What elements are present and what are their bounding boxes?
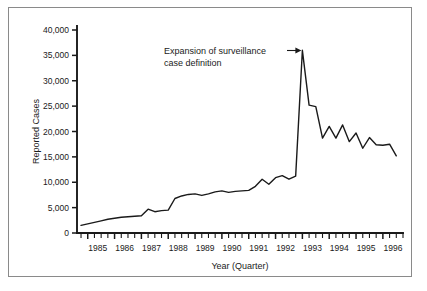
x-tick-label: 1991 [249,243,268,253]
annotation-line-1: Expansion of surveillance [164,46,266,56]
line-chart: 05,00010,00015,00020,00025,00030,00035,0… [9,8,413,278]
x-axis-title: Year (Quarter) [211,261,268,271]
x-tick-label: 1993 [303,243,322,253]
annotation-line-2: case definition [164,58,222,68]
y-axis-title: Reported Cases [31,98,41,164]
y-tick-label: 40,000 [43,25,69,35]
x-tick-label: 1995 [357,243,376,253]
x-tick-label: 1985 [88,243,107,253]
y-tick-label: 35,000 [43,50,69,60]
y-tick-label: 10,000 [43,177,69,187]
x-tick-label: 1986 [115,243,134,253]
annotation-arrow-icon [295,48,301,54]
x-tick-label: 1987 [142,243,161,253]
x-tick-label: 1990 [222,243,241,253]
y-tick-label: 5,000 [48,203,70,213]
x-tick-label: 1994 [330,243,349,253]
y-tick-label: 0 [64,228,69,238]
y-tick-label: 20,000 [43,127,69,137]
y-tick-label: 15,000 [43,152,69,162]
data-series-line [81,50,396,225]
y-tick-label: 25,000 [43,101,69,111]
y-tick-label: 30,000 [43,76,69,86]
x-tick-label: 1992 [276,243,295,253]
x-tick-label: 1988 [169,243,188,253]
figure-frame: 05,00010,00015,00020,00025,00030,00035,0… [8,7,412,277]
x-tick-label: 1989 [196,243,215,253]
x-tick-label: 1996 [383,243,402,253]
plot-area: 05,00010,00015,00020,00025,00030,00035,0… [9,8,413,278]
